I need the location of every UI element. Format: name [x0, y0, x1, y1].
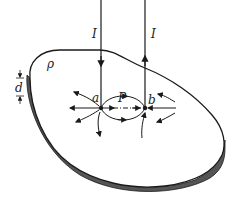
point-p-label: P — [117, 91, 127, 105]
thickness-label: d — [15, 81, 23, 95]
resistivity-diagram: d ρ I I a b P — [0, 0, 238, 200]
point-b-label: b — [148, 93, 156, 107]
plate-surface — [30, 50, 224, 187]
current-label-right: I — [150, 27, 156, 41]
resistivity-label: ρ — [46, 57, 54, 71]
current-label-left: I — [91, 27, 97, 41]
